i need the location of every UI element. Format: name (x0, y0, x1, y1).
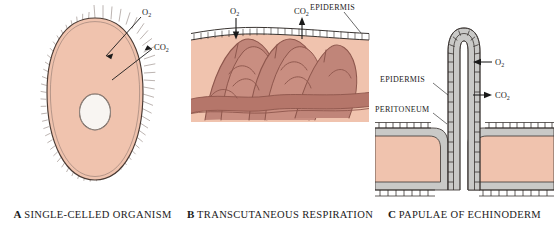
epidermis-label: EPIDERMIS (310, 3, 355, 12)
panel-single-celled-organism: O2 CO2 ASINGLE-CELLED ORGANISM (0, 0, 185, 228)
panel-a-caption: ASINGLE-CELLED ORGANISM (0, 208, 185, 220)
panel-c-illustration: O2 CO2 EPIDERMIS PERITONEUM (375, 0, 554, 210)
papula-peritoneum-lining (460, 41, 468, 190)
panel-b-letter: B (187, 208, 195, 220)
panel-a-illustration: O2 CO2 (0, 0, 185, 210)
peritoneum-leader-line (433, 113, 447, 124)
panel-c-caption: CPAPULAE OF ECHINODERM (375, 208, 554, 220)
figure-root: O2 CO2 ASINGLE-CELLED ORGANISM (0, 0, 554, 228)
body-wall-left (375, 123, 448, 197)
peritoneum-label: PERITONEUM (375, 105, 429, 114)
panel-c-letter: C (388, 208, 396, 220)
panel-b-illustration: O2 CO2 EPIDERMIS (185, 0, 375, 210)
panel-papulae-of-echinoderm: O2 CO2 EPIDERMIS PERITONEUM CPAPULAE OF … (375, 0, 554, 228)
panel-transcutaneous-respiration: O2 CO2 EPIDERMIS BTRANSCUTANEOUS RESPIRA… (185, 0, 375, 228)
papula (448, 28, 480, 190)
carbon-dioxide-label: CO2 (495, 90, 510, 101)
panel-b-caption-text: TRANSCUTANEOUS RESPIRATION (197, 209, 373, 220)
panel-c-caption-text: PAPULAE OF ECHINODERM (399, 209, 541, 220)
oxygen-label: O2 (495, 57, 504, 68)
epidermis-label: EPIDERMIS (380, 75, 425, 84)
carbon-dioxide-label: CO2 (294, 6, 309, 17)
epidermis-leader-line (433, 83, 448, 95)
carbon-dioxide-label: CO2 (154, 42, 169, 53)
panel-a-caption-text: SINGLE-CELLED ORGANISM (24, 209, 171, 220)
body-wall-right (468, 123, 554, 197)
panel-b-caption: BTRANSCUTANEOUS RESPIRATION (185, 208, 375, 220)
oxygen-label: O2 (142, 7, 151, 18)
epidermis-leader-line (344, 12, 361, 33)
oxygen-label: O2 (230, 6, 239, 17)
panel-a-letter: A (13, 208, 21, 220)
